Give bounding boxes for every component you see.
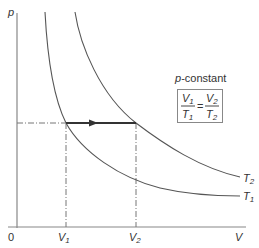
origin-label: 0 [8,231,14,243]
v1-tick-label: V1 [58,231,70,245]
isobaric-process-diagram: p-constant V1 T1 = V2 T2 p V 0 V1 V2 T2 … [0,0,259,248]
arrow-right-icon [89,120,98,127]
t2-curve-label: T2 [243,172,255,186]
x-axis-label: V [235,231,244,243]
y-axis-label: p [7,6,14,18]
t1-curve-label: T1 [243,190,254,204]
v2-tick-label: V2 [129,231,141,245]
formula-equals: = [197,100,203,112]
title-label: p-constant [174,72,226,84]
